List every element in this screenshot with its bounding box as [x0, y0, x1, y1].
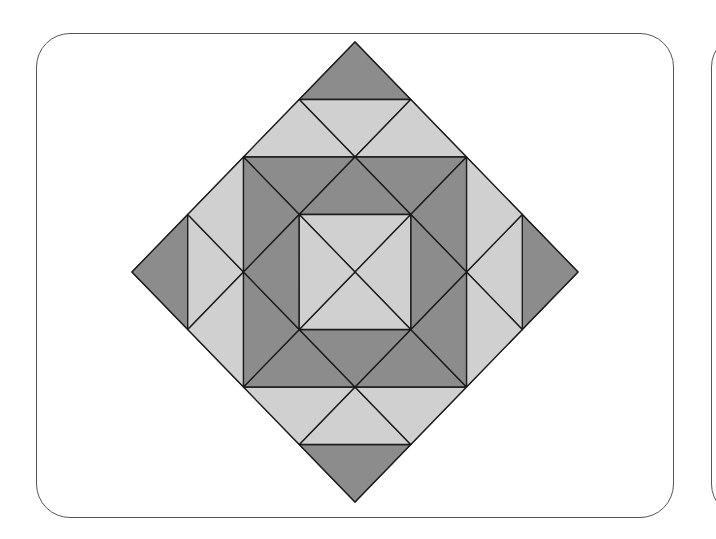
tip-left: [132, 215, 188, 330]
tip-right: [522, 215, 578, 330]
tip-top: [299, 42, 411, 100]
tip-bottom: [299, 445, 411, 503]
quilt-diamond-pattern: [0, 0, 716, 539]
